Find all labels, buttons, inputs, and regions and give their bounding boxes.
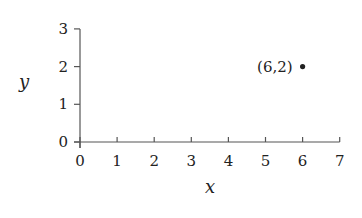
x-tick-label: 1 <box>112 152 122 170</box>
y-tick: 1 <box>58 95 80 113</box>
x-tick-label: 7 <box>335 152 345 170</box>
y-axis-label: y <box>18 71 30 92</box>
y-axis-ticks: 0123 <box>58 20 80 151</box>
y-tick-label: 1 <box>58 95 68 113</box>
y-tick: 2 <box>58 58 80 76</box>
y-tick: 3 <box>58 20 80 38</box>
x-tick-label: 3 <box>187 152 197 170</box>
x-tick-label: 6 <box>298 152 308 170</box>
x-tick-label: 5 <box>261 152 271 170</box>
y-tick: 0 <box>58 133 80 151</box>
x-axis-label: x <box>205 176 215 197</box>
y-tick-label: 0 <box>58 133 68 151</box>
x-tick-label: 2 <box>149 152 159 170</box>
scatter-chart: 01234567 0123 (6,2) x y <box>0 0 362 218</box>
x-tick-label: 4 <box>224 152 234 170</box>
x-tick-label: 0 <box>75 152 85 170</box>
axes <box>74 29 340 148</box>
data-points: (6,2) <box>257 58 305 76</box>
y-tick-label: 3 <box>58 20 68 38</box>
point-annotation: (6,2) <box>257 58 293 76</box>
point-marker <box>300 64 305 69</box>
y-tick-label: 2 <box>58 58 68 76</box>
data-point: (6,2) <box>257 58 305 76</box>
